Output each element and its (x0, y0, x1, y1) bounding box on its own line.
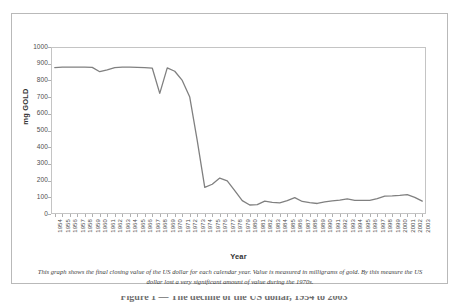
x-tick-label: 1966 (147, 219, 153, 233)
x-tick-mark (85, 214, 86, 217)
x-tick-label: 1957 (80, 219, 86, 233)
x-tick-mark (302, 214, 303, 217)
x-tick-mark (280, 214, 281, 217)
x-tick-mark (160, 214, 161, 217)
x-tick-mark (205, 214, 206, 217)
x-tick-label: 2000 (402, 219, 408, 233)
x-tick-label: 1956 (72, 219, 78, 233)
x-tick-mark (182, 214, 183, 217)
x-tick-label: 1979 (245, 219, 251, 233)
x-tick-mark (92, 214, 93, 217)
x-tick-label: 1996 (372, 219, 378, 233)
x-tick-mark (340, 214, 341, 217)
x-tick-label: 1970 (177, 219, 183, 233)
x-tick-label: 1993 (350, 219, 356, 233)
y-tick-label: 1000 (33, 44, 48, 51)
x-tick-mark (137, 214, 138, 217)
x-tick-mark (257, 214, 258, 217)
x-tick-mark (107, 214, 108, 217)
x-tick-mark (220, 214, 221, 217)
footer-caption-text: Figure 1 — The decline of the US dollar,… (0, 296, 468, 302)
page-footer: Figure 1 — The decline of the US dollar,… (0, 296, 468, 308)
x-tick-label: 1971 (185, 219, 191, 233)
x-tick-mark (355, 214, 356, 217)
x-tick-label: 2002 (417, 219, 423, 233)
x-tick-mark (400, 214, 401, 217)
x-tick-label: 1986 (297, 219, 303, 233)
x-tick-label: 1985 (290, 219, 296, 233)
x-tick-label: 1955 (65, 219, 71, 233)
x-tick-label: 1958 (87, 219, 93, 233)
x-tick-label: 1975 (215, 219, 221, 233)
x-tick-mark (332, 214, 333, 217)
x-tick-mark (377, 214, 378, 217)
x-tick-mark (310, 214, 311, 217)
x-tick-mark (77, 214, 78, 217)
x-tick-mark (422, 214, 423, 217)
x-tick-mark (272, 214, 273, 217)
figure-caption: This graph shows the final closing value… (32, 267, 428, 287)
figure-frame: mg GOLD 01002003004005006007008009001000… (11, 13, 448, 284)
x-tick-mark (130, 214, 131, 217)
x-tick-mark (145, 214, 146, 217)
x-tick-mark (212, 214, 213, 217)
chart-plot-area: mg GOLD 01002003004005006007008009001000… (12, 14, 447, 253)
x-tick-mark (317, 214, 318, 217)
x-tick-mark (287, 214, 288, 217)
x-tick-label: 1954 (57, 219, 63, 233)
x-tick-label: 1983 (275, 219, 281, 233)
x-tick-mark (325, 214, 326, 217)
x-tick-mark (242, 214, 243, 217)
x-tick-label: 2001 (410, 219, 416, 233)
x-tick-label: 1962 (117, 219, 123, 233)
x-tick-mark (227, 214, 228, 217)
x-tick-label: 1976 (222, 219, 228, 233)
y-axis-tick-labels: 01002003004005006007008009001000 (20, 47, 48, 214)
x-tick-label: 1991 (335, 219, 341, 233)
x-tick-mark (362, 214, 363, 217)
gold-value-line-series (51, 47, 426, 214)
x-tick-label: 1992 (342, 219, 348, 233)
x-tick-mark (370, 214, 371, 217)
x-tick-mark (55, 214, 56, 217)
x-tick-label: 1997 (380, 219, 386, 233)
x-tick-mark (197, 214, 198, 217)
x-tick-label: 1964 (132, 219, 138, 233)
x-tick-mark (347, 214, 348, 217)
x-tick-label: 1980 (252, 219, 258, 233)
x-tick-label: 1988 (312, 219, 318, 233)
x-tick-mark (70, 214, 71, 217)
x-tick-label: 1994 (357, 219, 363, 233)
x-tick-label: 1977 (230, 219, 236, 233)
x-tick-label: 1989 (320, 219, 326, 233)
x-tick-label: 1959 (95, 219, 101, 233)
x-tick-label: 1967 (155, 219, 161, 233)
x-tick-label: 1990 (327, 219, 333, 233)
x-tick-mark (115, 214, 116, 217)
x-tick-mark (415, 214, 416, 217)
x-tick-mark (122, 214, 123, 217)
x-tick-label: 1968 (162, 219, 168, 233)
x-tick-mark (392, 214, 393, 217)
x-tick-label: 1998 (387, 219, 393, 233)
x-tick-label: 1972 (192, 219, 198, 233)
x-tick-label: 2003 (425, 219, 431, 233)
x-tick-mark (250, 214, 251, 217)
x-tick-label: 1974 (207, 219, 213, 233)
x-tick-label: 1960 (102, 219, 108, 233)
x-tick-label: 1961 (110, 219, 116, 233)
x-tick-label: 1973 (200, 219, 206, 233)
x-tick-label: 1982 (267, 219, 273, 233)
x-tick-label: 1969 (170, 219, 176, 233)
x-tick-mark (62, 214, 63, 217)
x-axis-tick-labels: 1954195519561957195819591960196119621963… (51, 218, 426, 248)
x-tick-label: 1995 (365, 219, 371, 233)
x-axis-title: Year (51, 252, 426, 261)
x-tick-label: 1963 (125, 219, 131, 233)
x-tick-mark (152, 214, 153, 217)
x-tick-mark (167, 214, 168, 217)
x-tick-mark (175, 214, 176, 217)
x-tick-label: 1981 (260, 219, 266, 233)
x-tick-label: 1978 (237, 219, 243, 233)
x-tick-mark (190, 214, 191, 217)
